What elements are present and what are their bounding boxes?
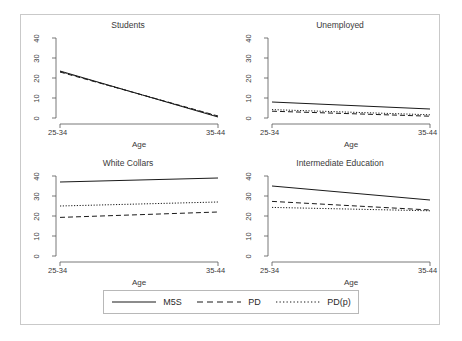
panel-unemployed: Unemployed 40 30 20 10 0 25-34 35-44 Age bbox=[240, 20, 440, 150]
panel-white-collars-xlabel: Age bbox=[60, 278, 218, 287]
legend-label-m5s: M5S bbox=[163, 297, 182, 307]
legend-entry-pd: PD bbox=[196, 297, 261, 307]
series-pdp-line bbox=[272, 110, 430, 115]
legend-entry-pdp: PD(p) bbox=[275, 297, 351, 307]
series-m5s-line bbox=[60, 178, 218, 182]
chart-legend: M5S PD PD(p) bbox=[103, 290, 359, 314]
panel-intermediate-education: Intermediate Education 40 30 20 10 0 25-… bbox=[240, 158, 440, 288]
series-m5s-line bbox=[272, 102, 430, 109]
legend-label-pd: PD bbox=[248, 297, 261, 307]
panel-unemployed-xtick-right: 35-44 bbox=[418, 128, 437, 137]
series-pdp-line bbox=[60, 202, 218, 206]
legend-label-pdp: PD(p) bbox=[327, 297, 351, 307]
panel-white-collars: White Collars 40 30 20 10 0 25-34 35-44 … bbox=[28, 158, 228, 288]
series-pd-line bbox=[60, 212, 218, 217]
series-pdp-line bbox=[272, 207, 430, 210]
series-m5s-line bbox=[272, 186, 430, 200]
panel-white-collars-xtick-left: 25-34 bbox=[48, 266, 67, 275]
figure-root: Students 40 30 20 10 0 25-34 35-44 Age bbox=[0, 0, 462, 341]
panel-unemployed-xlabel: Age bbox=[272, 140, 430, 149]
legend-swatch-dashed-icon bbox=[196, 298, 242, 306]
panel-students-xtick-right: 35-44 bbox=[206, 128, 225, 137]
panel-students: Students 40 30 20 10 0 25-34 35-44 Age bbox=[28, 20, 228, 150]
legend-entry-m5s: M5S bbox=[111, 297, 182, 307]
panel-intermediate-education-xtick-left: 25-34 bbox=[260, 266, 279, 275]
legend-swatch-solid-icon bbox=[111, 298, 157, 306]
legend-swatch-dotted-icon bbox=[275, 298, 321, 306]
panel-white-collars-xtick-right: 35-44 bbox=[206, 266, 225, 275]
panel-students-xlabel: Age bbox=[60, 140, 218, 149]
panel-students-xtick-left: 25-34 bbox=[48, 128, 67, 137]
panel-intermediate-education-xlabel: Age bbox=[272, 278, 430, 287]
panel-intermediate-education-xtick-right: 35-44 bbox=[418, 266, 437, 275]
panel-unemployed-xtick-left: 25-34 bbox=[260, 128, 279, 137]
